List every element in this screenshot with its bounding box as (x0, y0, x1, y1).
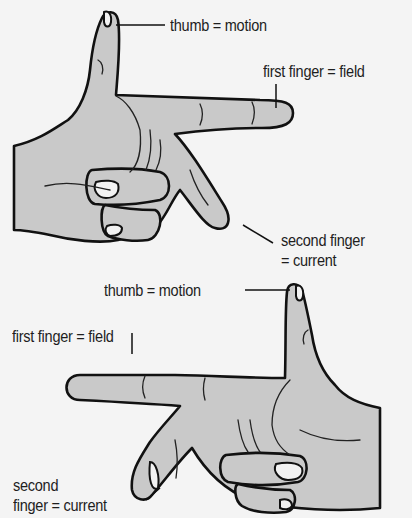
top-thumb-label: thumb = motion (170, 16, 267, 35)
top-hand-illustration (14, 11, 293, 243)
top-second-finger-label-line2: = current (281, 251, 336, 270)
bottom-first-finger-label: first finger = field (12, 327, 114, 346)
fleming-rule-figure: thumb = motion first finger = field seco… (0, 0, 412, 518)
bottom-hand-illustration (67, 284, 381, 513)
bottom-second-finger-label-line1: second (13, 476, 58, 495)
top-first-finger-label: first finger = field (263, 62, 365, 81)
bottom-thumb-label: thumb = motion (104, 281, 201, 300)
top-second-finger-label-line1: second finger (281, 231, 365, 250)
bottom-second-finger-label-line2: finger = current (13, 496, 107, 515)
